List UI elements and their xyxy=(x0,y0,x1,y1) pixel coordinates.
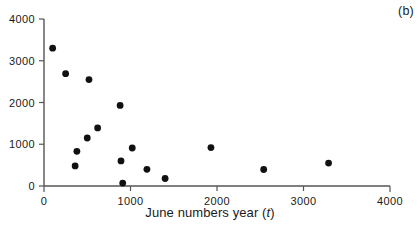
y-tick-label: 4000 xyxy=(9,13,35,25)
y-tick-label: 2000 xyxy=(9,97,35,109)
data-point xyxy=(73,148,80,155)
x-axis-title-paren: ) xyxy=(270,205,274,220)
data-point xyxy=(94,125,101,132)
data-point xyxy=(144,166,151,173)
data-point xyxy=(260,166,267,173)
data-point xyxy=(62,70,69,77)
x-axis-title: June numbers year (t) xyxy=(0,205,420,220)
data-points-group xyxy=(49,45,332,187)
scatter-plot: 01000200030004000 01000200030004000 xyxy=(0,0,420,238)
tick-marks-group xyxy=(39,19,390,192)
data-point xyxy=(86,76,93,83)
data-point xyxy=(117,102,124,109)
data-point xyxy=(325,160,332,167)
y-tick-labels-group: 01000200030004000 xyxy=(9,13,35,192)
data-point xyxy=(162,175,169,182)
data-point xyxy=(49,45,56,52)
data-point xyxy=(208,144,215,151)
y-tick-label: 3000 xyxy=(9,55,35,67)
data-point xyxy=(72,163,79,170)
data-point xyxy=(118,158,125,165)
axes-group xyxy=(44,19,390,186)
data-point xyxy=(129,145,136,152)
data-point xyxy=(119,180,126,187)
figure-panel: (b) 01000200030004000 01000200030004000 … xyxy=(0,0,420,238)
y-tick-label: 0 xyxy=(28,180,35,192)
data-point xyxy=(84,135,91,142)
y-tick-label: 1000 xyxy=(9,138,35,150)
x-axis-title-text: June numbers year ( xyxy=(145,205,266,220)
